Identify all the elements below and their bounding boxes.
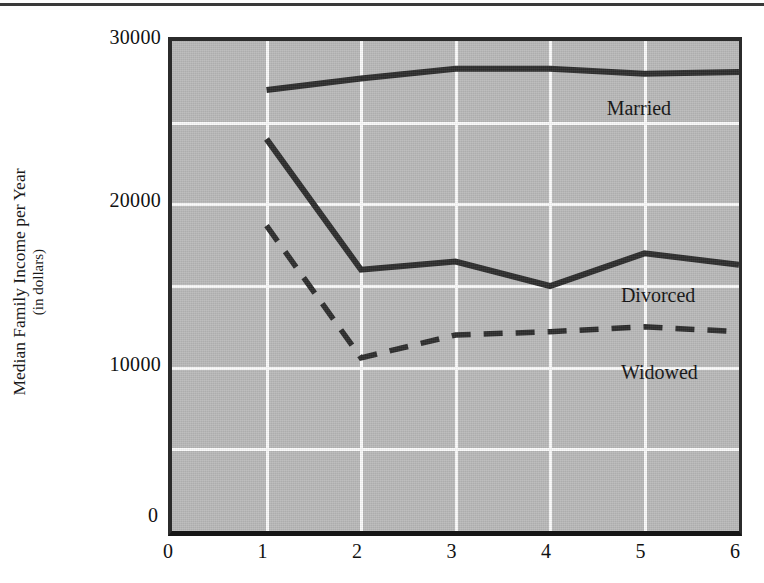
y-axis-title-line1: Median Family Income per Year xyxy=(10,169,30,396)
y-axis-title: Median Family Income per Year (in dollar… xyxy=(6,37,50,527)
series-label-widowed: Widowed xyxy=(621,361,698,384)
y-axis-tick-label: 20000 xyxy=(51,189,161,212)
x-axis-tick-label: 6 xyxy=(730,540,740,563)
x-axis-tick-label: 0 xyxy=(163,540,173,563)
x-axis-tick-label: 5 xyxy=(636,540,646,563)
x-axis-tick-labels: 0123456 xyxy=(0,540,764,580)
chart-figure: Median Family Income per Year (in dollar… xyxy=(0,0,764,583)
y-axis-tick-label: 10000 xyxy=(51,352,161,375)
x-axis-tick-label: 2 xyxy=(352,540,362,563)
y-axis-tick-label: 30000 xyxy=(51,26,161,49)
y-axis-tick-zero: 0 xyxy=(148,504,158,527)
y-axis-title-line2: (in dollars) xyxy=(29,169,46,396)
plot-area: MarriedDivorcedWidowed xyxy=(168,37,742,536)
x-axis-tick-label: 3 xyxy=(447,540,457,563)
x-axis-tick-label: 4 xyxy=(541,540,551,563)
y-axis-tick-labels: 100002000030000 xyxy=(48,0,161,583)
plot-inner: MarriedDivorcedWidowed xyxy=(172,41,739,531)
series-label-divorced: Divorced xyxy=(621,284,695,307)
x-axis-tick-label: 1 xyxy=(258,540,268,563)
series-line-divorced xyxy=(267,139,740,286)
series-label-married: Married xyxy=(607,97,671,120)
series-line-married xyxy=(267,69,740,90)
